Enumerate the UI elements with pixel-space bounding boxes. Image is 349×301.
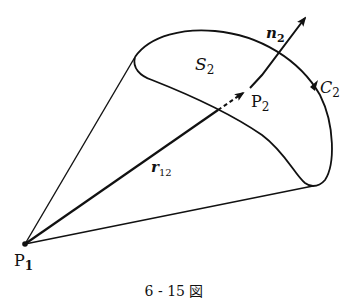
label-c2: C2 (320, 78, 340, 100)
r12-vector-dashed (218, 93, 243, 110)
cone-diagram: S2 C2 P2 n2 r12 P1 6 - 15 図 (0, 0, 349, 301)
label-n2: n2 (266, 24, 285, 45)
label-s2: S2 (195, 54, 214, 77)
cone-left-generator (25, 57, 135, 244)
boundary-curve-c2 (135, 30, 332, 186)
figure-caption: 6 - 15 図 (145, 283, 204, 299)
point-p1-dot (22, 241, 28, 247)
label-p2: P2 (251, 92, 269, 114)
normal-vector-n2 (250, 18, 305, 88)
label-p1: P1 (14, 251, 33, 273)
label-r12: r12 (151, 158, 172, 178)
